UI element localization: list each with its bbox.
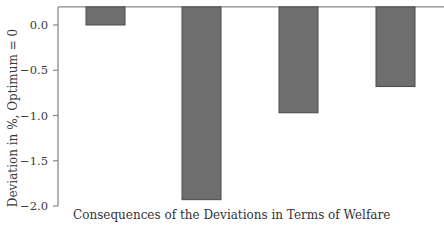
bar-3 (279, 7, 318, 113)
bars (86, 7, 415, 200)
bar-chart: 0.0−0.5−1.0−1.5−2.0 Deviation in %, Opti… (0, 0, 444, 231)
y-tick-label: 0.0 (30, 18, 48, 32)
bar-4 (376, 7, 415, 87)
y-tick-label: −0.5 (20, 63, 48, 77)
bar-1 (86, 7, 125, 25)
y-tick-label: −1.5 (20, 154, 48, 168)
y-tick-label: −2.0 (20, 199, 48, 213)
y-axis-ticks: 0.0−0.5−1.0−1.5−2.0 (20, 18, 58, 213)
bar-2 (182, 7, 221, 200)
y-tick-label: −1.0 (20, 109, 48, 123)
y-axis-label: Deviation in %, Optimum = 0 (6, 29, 20, 207)
x-axis-label: Consequences of the Deviations in Terms … (73, 208, 390, 222)
